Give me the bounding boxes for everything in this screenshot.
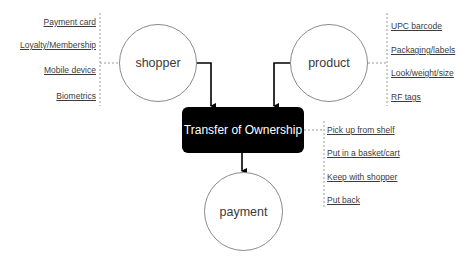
product-label: product — [308, 56, 350, 70]
payment-node: payment — [204, 172, 283, 251]
product-attr-upc: UPC barcode — [391, 21, 442, 31]
transfer-action-pick-up: Pick up from shelf — [327, 125, 395, 135]
transfer-action-put-back: Put back — [327, 195, 360, 205]
product-to-transfer-arrow — [274, 63, 290, 106]
product-attr-packaging: Packaging/labels — [391, 45, 455, 55]
shopper-attr-payment-card: Payment card — [44, 17, 96, 27]
shopper-attr-mobile-device: Mobile device — [44, 65, 96, 75]
shopper-node: shopper — [119, 24, 197, 102]
shopper-attr-biometrics: Biometrics — [56, 91, 96, 101]
shopper-label: shopper — [135, 56, 180, 70]
transfer-action-keep: Keep with shopper — [327, 172, 397, 182]
shopper-attr-loyalty: Loyalty/Membership — [20, 40, 96, 50]
payment-label: payment — [220, 205, 268, 219]
transfer-label: Transfer of Ownership — [184, 123, 302, 137]
shopper-to-transfer-arrow — [196, 63, 211, 106]
product-node: product — [290, 24, 368, 102]
transfer-action-basket: Put in a basket/cart — [327, 148, 400, 158]
transfer-of-ownership-node: Transfer of Ownership — [182, 107, 304, 153]
product-attr-rf-tags: RF tags — [391, 92, 421, 102]
product-attr-look: Look/weight/size — [391, 68, 454, 78]
